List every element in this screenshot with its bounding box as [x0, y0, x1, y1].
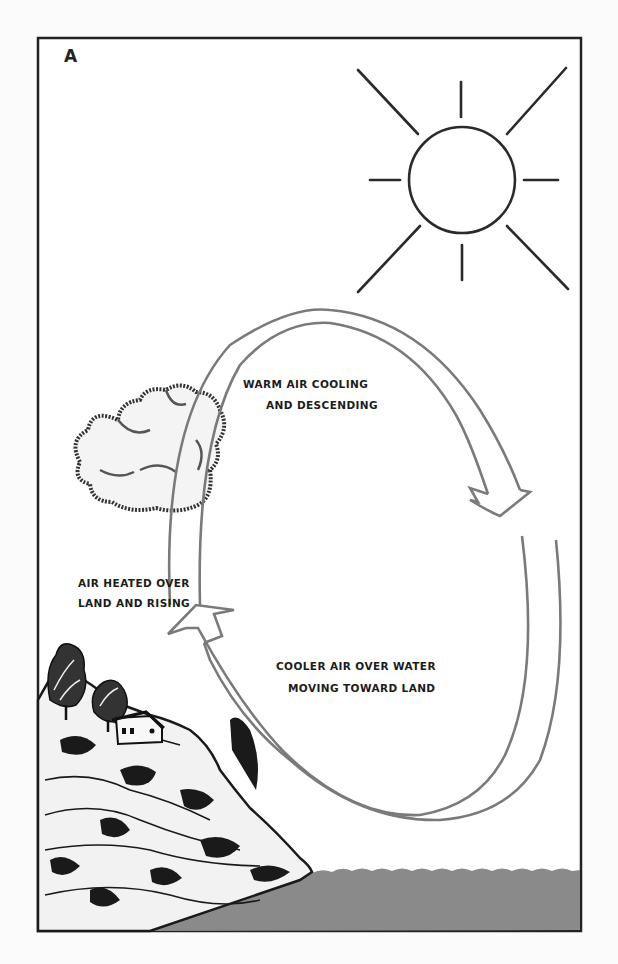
label-heated-air-line2: LAND AND RISING: [78, 594, 190, 612]
label-cooler-air-line2: MOVING TOWARD LAND: [288, 679, 436, 697]
panel-letter: A: [64, 46, 77, 66]
label-heated-air-line1: AIR HEATED OVER: [78, 574, 190, 592]
label-warm-air-line2: AND DESCENDING: [266, 396, 378, 414]
sea-breeze-diagram: A WARM AIR COOLING AND DESCENDING AIR HE…: [0, 0, 618, 964]
label-cooler-air-line1: COOLER AIR OVER WATER: [276, 657, 436, 675]
label-warm-air-line1: WARM AIR COOLING: [243, 375, 368, 393]
